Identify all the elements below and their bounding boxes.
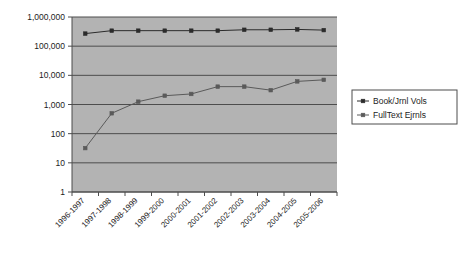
data-point-marker xyxy=(83,32,87,36)
y-axis-tick-label: 100,000 xyxy=(34,41,65,51)
y-axis-tick-label: 1,000,000 xyxy=(27,12,65,22)
data-point-marker xyxy=(83,146,87,150)
y-axis-tick-label: 100 xyxy=(51,129,65,139)
data-point-marker xyxy=(216,29,220,33)
data-point-marker xyxy=(216,85,220,89)
y-axis-tick-label: 10 xyxy=(56,158,66,168)
data-point-marker xyxy=(163,29,167,33)
legend-marker-icon xyxy=(361,99,365,103)
y-axis-tick-label: 1 xyxy=(60,187,65,197)
chart-figure: 1101001,00010,000100,0001,000,000 1996-1… xyxy=(0,0,468,270)
data-point-marker xyxy=(136,29,140,33)
legend-marker-icon xyxy=(361,113,365,117)
y-axis-tick-label: 1,000 xyxy=(44,100,66,110)
line-chart: 1101001,00010,000100,0001,000,000 1996-1… xyxy=(0,0,468,270)
data-point-marker xyxy=(269,28,273,32)
legend-label: Book/Jrnl Vols xyxy=(373,96,427,106)
data-point-marker xyxy=(110,111,114,115)
data-point-marker xyxy=(322,78,326,82)
data-point-marker xyxy=(295,80,299,84)
data-point-marker xyxy=(110,29,114,33)
data-point-marker xyxy=(242,28,246,32)
data-point-marker xyxy=(269,88,273,92)
y-axis-tick-label: 10,000 xyxy=(39,70,65,80)
data-point-marker xyxy=(163,94,167,98)
data-point-marker xyxy=(242,85,246,89)
data-point-marker xyxy=(295,28,299,32)
data-point-marker xyxy=(322,28,326,32)
chart-legend[interactable]: Book/Jrnl VolsFullText Ejrnls xyxy=(352,90,457,124)
data-point-marker xyxy=(189,92,193,96)
data-point-marker xyxy=(136,100,140,104)
legend-label: FullText Ejrnls xyxy=(373,110,426,120)
data-point-marker xyxy=(189,29,193,33)
